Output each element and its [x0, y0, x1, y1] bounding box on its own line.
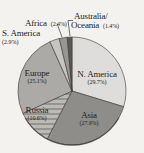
label-asia: Asia (27.9%) [70, 111, 108, 126]
europe-name: Europe [12, 69, 62, 78]
n-america-name: N. America [70, 70, 124, 79]
label-russia: Russia (10.6%) [13, 106, 61, 121]
n-america-pct: (29.7%) [70, 79, 124, 85]
pie-chart-figure: Africa (2.4%) S. America (2.9%) Australi… [0, 0, 144, 153]
s-america-name: S. America [2, 28, 40, 38]
russia-pct: (10.6%) [13, 115, 61, 121]
australia-pct: (1.4%) [103, 23, 119, 29]
label-n-america: N. America (29.7%) [70, 70, 124, 85]
africa-pct: (2.4%) [51, 21, 67, 27]
label-australia-line2: Oceania (1.4%) [71, 15, 119, 31]
label-s-america: S. America (2.9%) [2, 23, 40, 45]
australia-name-line2: Oceania [71, 20, 99, 30]
s-america-pct: (2.9%) [2, 39, 40, 45]
asia-pct: (27.9%) [70, 120, 108, 126]
asia-name: Asia [70, 111, 108, 120]
russia-name: Russia [13, 106, 61, 115]
europe-pct: (25.1%) [12, 78, 62, 84]
label-europe: Europe (25.1%) [12, 69, 62, 84]
